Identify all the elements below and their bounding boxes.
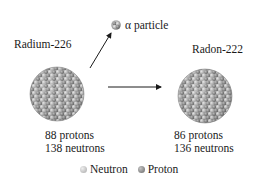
legend: Neutron Proton: [80, 163, 188, 176]
parent-protons: 88 protons: [45, 129, 105, 142]
legend-proton-label: Proton: [148, 163, 179, 176]
daughter-counts: 86 protons 136 neutrons: [174, 129, 234, 155]
neutron-dot-icon: [80, 166, 87, 173]
radium-nucleus-icon: [30, 67, 84, 121]
daughter-neutrons: 136 neutrons: [174, 142, 234, 155]
legend-neutron-label: Neutron: [90, 163, 128, 176]
alpha-particle-label: α particle: [125, 19, 168, 32]
legend-item-neutron: Neutron: [80, 163, 128, 176]
daughter-protons: 86 protons: [174, 129, 234, 142]
daughter-nucleus-label: Radon-222: [192, 43, 243, 56]
emission-arrow: [90, 33, 111, 68]
parent-neutrons: 138 neutrons: [45, 142, 105, 155]
proton-dot-icon: [138, 166, 145, 173]
legend-item-proton: Proton: [138, 163, 179, 176]
parent-counts: 88 protons 138 neutrons: [45, 129, 105, 155]
alpha-particle-icon: [111, 20, 121, 30]
parent-nucleus-label: Radium-226: [14, 38, 72, 51]
radon-nucleus-icon: [178, 69, 232, 123]
alpha-decay-diagram: Radium-226 α particle Radon-222 88 proto…: [0, 0, 261, 185]
